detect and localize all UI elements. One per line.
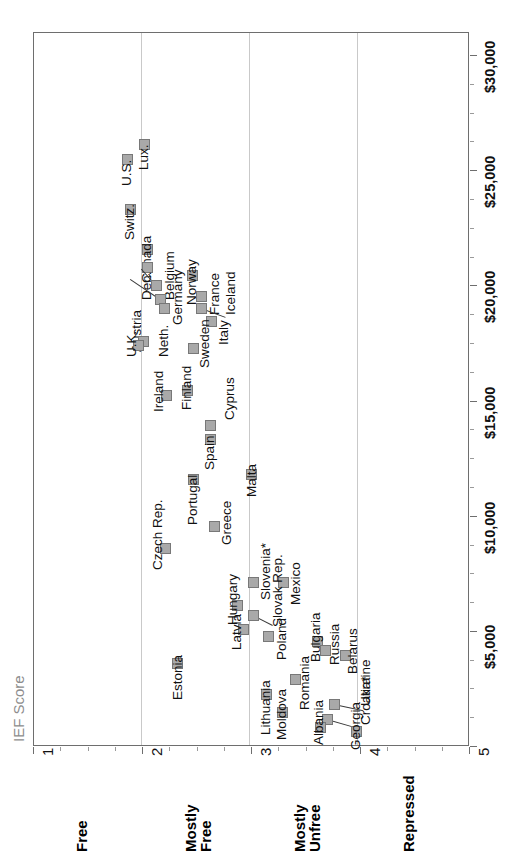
gdp-tick-minor: [470, 429, 474, 430]
data-point-label: Albania: [311, 700, 326, 745]
data-point-label: Ireland: [151, 371, 166, 412]
plot-area: [33, 32, 469, 746]
data-point-label: Cyprus: [222, 377, 237, 420]
data-point-label: Iceland: [223, 271, 238, 315]
data-point-marker[interactable]: [263, 631, 274, 642]
band-label-line: Unfree: [307, 804, 322, 852]
ief-tick-minor: [415, 747, 416, 751]
ief-tick-minor: [278, 747, 279, 751]
ief-tick-major: [360, 747, 361, 754]
band-label-line: Free: [74, 820, 89, 852]
gdp-tick-minor: [470, 141, 474, 142]
gdp-tick-minor: [470, 545, 474, 546]
gdp-tick-minor: [470, 113, 474, 114]
band-label-line: Mostly: [183, 804, 198, 852]
gdp-tick-major: [470, 55, 477, 56]
gdp-tick-minor: [470, 487, 474, 488]
gdp-tick-minor: [470, 458, 474, 459]
ief-tick-minor: [333, 747, 334, 751]
data-point-marker[interactable]: [196, 303, 207, 314]
ief-tick-minor: [224, 747, 225, 751]
data-point-label: Malta: [244, 464, 259, 497]
data-point-label: Portugal: [185, 475, 200, 525]
data-point-label: Latvia: [229, 614, 244, 650]
ief-tick-minor: [60, 747, 61, 751]
data-point-label: Romania: [297, 656, 312, 710]
data-point-label: France: [207, 273, 222, 315]
data-point-label: Neth.: [156, 325, 171, 357]
data-point-label: Lithuania: [258, 680, 273, 735]
ief-tick-label: 5: [475, 748, 492, 756]
gdp-tick-minor: [470, 199, 474, 200]
data-point-label: Slovak Rep.: [270, 554, 285, 627]
gdp-tick-minor: [470, 314, 474, 315]
gdp-tick-minor: [470, 602, 474, 603]
gdp-tick-minor: [470, 573, 474, 574]
gdp-tick-minor: [470, 688, 474, 689]
band-label: Free: [74, 820, 89, 852]
gdp-tick-major: [470, 285, 477, 286]
data-point-marker[interactable]: [159, 303, 170, 314]
gdp-tick-label: $20,000: [482, 271, 498, 323]
ief-tick-label: 3: [257, 748, 274, 756]
data-point-label: Italy: [216, 320, 231, 345]
band-label-line: Free: [198, 804, 213, 852]
data-point-marker[interactable]: [248, 610, 259, 621]
gdp-tick-minor: [470, 257, 474, 258]
band-label: MostlyUnfree: [292, 804, 323, 852]
gdp-tick-minor: [470, 660, 474, 661]
gdp-tick-major: [470, 516, 477, 517]
data-point-label: Spain: [202, 435, 217, 470]
data-point-marker[interactable]: [329, 699, 340, 710]
gdp-tick-label: $10,000: [482, 501, 498, 553]
data-point-label: Lux.: [136, 144, 151, 170]
data-point-marker[interactable]: [205, 420, 216, 431]
gridline-ief-3: [249, 33, 250, 745]
ief-tick-minor: [306, 747, 307, 751]
gdp-tick-minor: [470, 343, 474, 344]
gdp-tick-major: [470, 401, 477, 402]
gdp-tick-major: [470, 746, 477, 747]
band-label-line: Repressed: [401, 775, 416, 852]
data-point-label: U.K.: [124, 331, 139, 357]
data-point-label: Poland: [274, 618, 289, 660]
data-point-label: Finland: [179, 366, 194, 410]
data-point-marker[interactable]: [196, 291, 207, 302]
gdp-tick-minor: [470, 228, 474, 229]
data-point-label: Sweden: [197, 319, 212, 368]
gdp-tick-major: [470, 170, 477, 171]
data-point-marker[interactable]: [151, 280, 162, 291]
data-point-label: Moldova: [274, 689, 289, 740]
ief-tick-minor: [169, 747, 170, 751]
ief-tick-major: [33, 747, 34, 754]
data-point-label: Greece: [219, 501, 234, 545]
gdp-tick-label: $5,000: [482, 624, 498, 668]
data-point-label: Georgia: [348, 702, 363, 750]
band-label-line: Mostly: [292, 804, 307, 852]
ief-tick-minor: [115, 747, 116, 751]
gdp-tick-minor: [470, 84, 474, 85]
ief-tick-major: [142, 747, 143, 754]
band-label: Repressed: [401, 775, 416, 852]
ief-tick-minor: [88, 747, 89, 751]
data-point-label: Czech Rep.: [150, 499, 165, 570]
gdp-tick-minor: [470, 372, 474, 373]
ief-tick-label: 4: [366, 748, 383, 756]
ief-tick-minor: [442, 747, 443, 751]
axis-title-ief-score: IEF Score: [10, 675, 27, 742]
data-point-label: Estonia: [170, 655, 185, 700]
gdp-tick-minor: [470, 717, 474, 718]
ief-tick-label: 2: [148, 748, 165, 756]
data-point-label: Germany: [170, 269, 185, 325]
ief-tick-label: 1: [39, 748, 56, 756]
data-point-label: Switz.: [122, 204, 137, 240]
ief-tick-major: [469, 747, 470, 754]
ief-tick-major: [251, 747, 252, 754]
band-label: MostlyFree: [183, 804, 214, 852]
gdp-tick-label: $15,000: [482, 386, 498, 438]
gdp-tick-label: $30,000: [482, 41, 498, 93]
data-point-label: U.S.: [119, 160, 134, 186]
data-point-label: Mexico: [288, 562, 303, 605]
ief-tick-minor: [197, 747, 198, 751]
ief-tick-minor: [387, 747, 388, 751]
